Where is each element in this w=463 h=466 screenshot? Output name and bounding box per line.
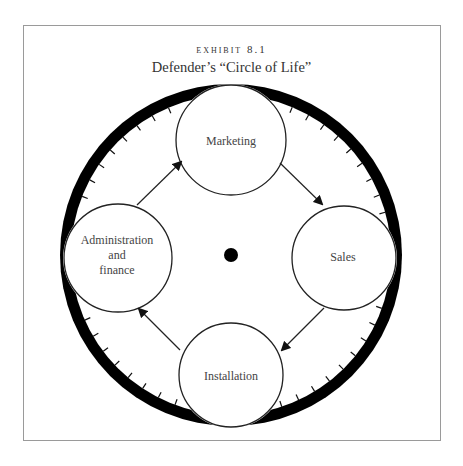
admin-label-line-3: finance — [81, 263, 154, 278]
installation-label: Installation — [204, 369, 258, 384]
admin-finance-label: Administration and finance — [81, 233, 154, 278]
admin-label-line-2: and — [81, 248, 154, 263]
marketing-label: Marketing — [206, 134, 256, 149]
admin-label-line-1: Administration — [81, 233, 154, 248]
center-hub-dot — [224, 248, 238, 262]
circle-of-life-diagram — [0, 0, 463, 466]
sales-label: Sales — [330, 250, 355, 265]
